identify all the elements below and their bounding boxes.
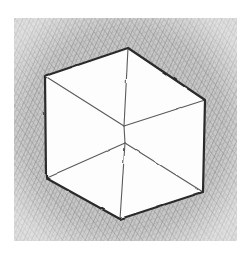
- artwork-canvas: Hexagonal Cube Illusion Pencil drawing o…: [0, 0, 251, 261]
- cube-drawing-svg: Hexagonal Cube Illusion Pencil drawing o…: [0, 0, 251, 261]
